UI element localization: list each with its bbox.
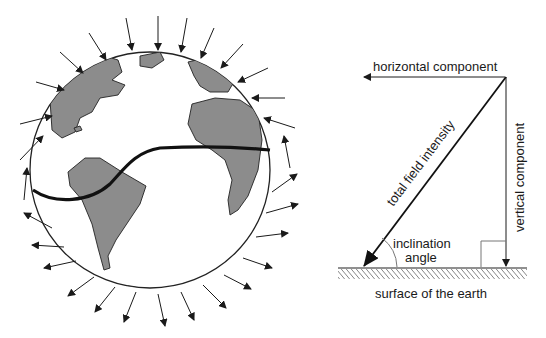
inclination-label-line2: angle [405, 250, 437, 265]
inclination-label-line1: inclination [393, 236, 451, 251]
horizontal-component-label: horizontal component [373, 59, 498, 74]
globe [30, 52, 270, 296]
right-angle-marker [481, 241, 506, 267]
vector-diagram: horizontal component vertical component … [338, 59, 527, 301]
ground-hatching [338, 269, 527, 279]
surface-label: surface of the earth [375, 286, 487, 301]
total-field-intensity-label: total field intensity [383, 117, 457, 209]
vertical-component-label: vertical component [512, 123, 527, 232]
diagram-canvas: horizontal component vertical component … [0, 0, 546, 338]
